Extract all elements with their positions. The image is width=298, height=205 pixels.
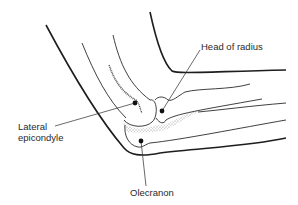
leader-head-of-radius: [162, 50, 200, 111]
label-head-of-radius: Head of radius: [201, 41, 263, 52]
humerus-posterior-line: [82, 43, 126, 118]
radial-head-outline: [155, 84, 250, 100]
supracondylar-ridge-shade: [110, 67, 137, 101]
label-lateral-epicondyle: Lateral epicondyle: [18, 121, 63, 143]
label-lateral-line2: epicondyle: [18, 132, 63, 143]
humerus-anterior-line: [113, 35, 150, 100]
olecranon-dot: [139, 139, 144, 144]
capitulum-outline: [124, 100, 156, 126]
lateral-epicondyle-dot: [133, 101, 138, 106]
label-lateral-line1: Lateral: [18, 121, 63, 132]
head-of-radius-dot: [160, 109, 165, 114]
radius-shaft-lower: [198, 103, 286, 112]
elbow-diagram: [0, 0, 298, 205]
label-olecranon: Olecranon: [130, 187, 174, 198]
leader-olecranon: [141, 141, 146, 186]
